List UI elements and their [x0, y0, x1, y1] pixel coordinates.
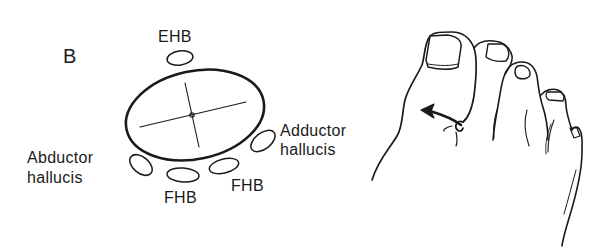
foot-illustration	[372, 32, 582, 246]
adductor-tendon-icon	[247, 126, 279, 156]
diagram-canvas: B EHB Adductor hallucis Abductor halluci…	[0, 0, 603, 252]
fhb-lateral-label: FHB	[231, 176, 264, 195]
ehb-label: EHB	[158, 27, 192, 46]
fhb-lateral-tendon-icon	[208, 156, 240, 177]
ehb-tendon-icon	[166, 49, 194, 66]
abductor-label-line1: Abductor	[27, 148, 93, 167]
adductor-label-line2: hallucis	[280, 140, 336, 159]
panel-label: B	[63, 47, 77, 66]
rotation-arrow-icon	[421, 104, 461, 125]
fhb-medial-tendon-icon	[167, 167, 200, 183]
adductor-label-line1: Adductor	[280, 121, 346, 140]
fhb-medial-label: FHB	[164, 188, 197, 207]
abductor-label-line2: hallucis	[27, 168, 83, 187]
